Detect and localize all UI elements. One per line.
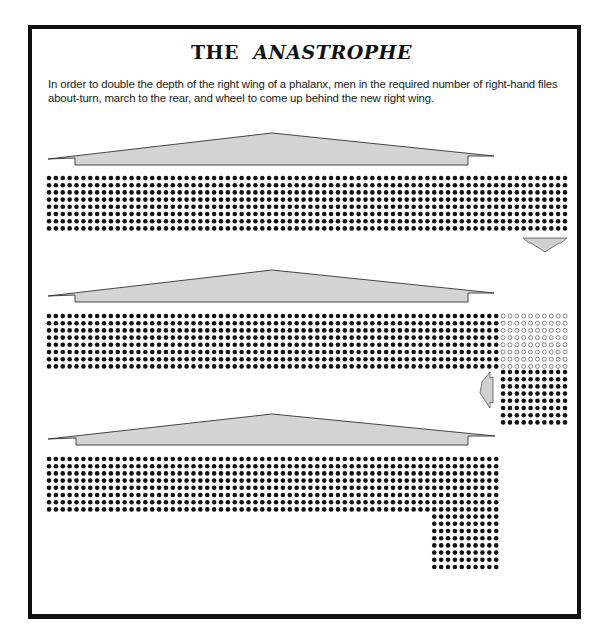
soldier-block: [47, 457, 499, 512]
soldier-block: [47, 314, 499, 369]
arrow-down-icon: [523, 238, 567, 252]
phalanx-diagram: [0, 0, 611, 632]
formation-banner: [48, 133, 494, 165]
soldier-block: [501, 370, 568, 425]
stage-1-original-phalanx: [47, 133, 568, 252]
soldier-block: [432, 514, 499, 569]
stage-3-doubled-right-wing: [47, 414, 499, 569]
arrow-left-icon: [480, 372, 493, 408]
formation-banner: [48, 270, 494, 302]
soldier-block: [47, 176, 568, 231]
formation-banner: [48, 414, 495, 445]
vacated-files-block: [501, 314, 567, 368]
stage-2-files-about-turn: [47, 270, 568, 425]
